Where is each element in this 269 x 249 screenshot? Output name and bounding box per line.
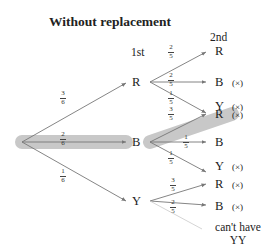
node-first-R: R [132, 76, 140, 89]
mark-RB: (×) [232, 79, 243, 88]
prob-root-R: 36 [60, 90, 66, 106]
node-first-Y: Y [132, 195, 141, 208]
prob-Y-B: 25 [170, 199, 176, 215]
prob-root-Y: 16 [60, 168, 66, 184]
prob-R-Y: 15 [168, 90, 174, 106]
impossible-branch-YY [150, 201, 202, 229]
node-RR: R [215, 45, 223, 58]
highlighted-path-band [22, 114, 232, 142]
note-line-2: YY [209, 234, 267, 247]
node-YR: R [215, 178, 223, 191]
prob-R-R: 25 [168, 44, 174, 60]
mark-YR: (×) [232, 181, 243, 190]
node-RB: B [215, 76, 223, 89]
node-BB: B [215, 136, 223, 149]
diagram-title: Without replacement [49, 15, 171, 29]
mark-BR: (×) [232, 111, 243, 120]
prob-B-R: 35 [168, 106, 174, 122]
prob-B-B: 15 [183, 134, 189, 150]
prob-root-B: 26 [60, 131, 66, 147]
header-second: 2nd [210, 32, 227, 44]
tree-lines [0, 0, 269, 249]
node-BR: R [215, 108, 223, 121]
prob-B-Y: 15 [168, 150, 174, 166]
node-first-B: B [132, 136, 140, 149]
mark-YB: (×) [232, 203, 243, 212]
prob-Y-R: 35 [170, 177, 176, 193]
mark-BY: (×) [232, 163, 243, 172]
branch-root-to-Y [22, 142, 126, 201]
prob-R-B: 25 [168, 72, 174, 88]
node-BY: Y [215, 160, 224, 173]
note-line-1: can't have [209, 221, 267, 234]
header-first: 1st [131, 47, 144, 59]
node-YB: B [215, 200, 223, 213]
note-cant-have-YY: can't have YY [209, 221, 267, 247]
branch-root-to-R [22, 83, 126, 142]
